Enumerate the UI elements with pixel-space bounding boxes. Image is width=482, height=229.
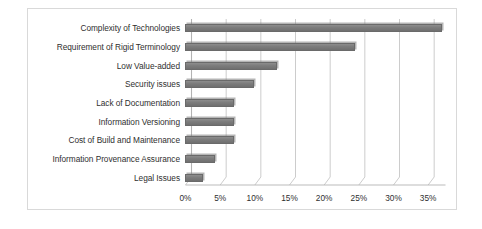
bar xyxy=(185,136,234,144)
x-tick-label: 15% xyxy=(281,193,298,203)
plot-area: Complexity of Technologies Requirement o… xyxy=(28,9,456,209)
category-label: Information Provenance Assurance xyxy=(28,154,185,164)
x-tick-label: 25% xyxy=(351,193,368,203)
x-tick-label: 20% xyxy=(316,193,333,203)
category-label: Requirement of Rigid Terminology xyxy=(28,42,185,52)
category-label: Security issues xyxy=(28,79,185,89)
category-label: Complexity of Technologies xyxy=(28,23,185,33)
bar xyxy=(185,155,215,163)
bar-row xyxy=(185,94,445,113)
x-tick-label: 10% xyxy=(247,193,264,203)
bars-layer xyxy=(185,19,445,187)
x-tick-label: 5% xyxy=(214,193,226,203)
category-label: Lack of Documentation xyxy=(28,98,185,108)
bar-row xyxy=(185,168,445,187)
x-tick-label: 30% xyxy=(385,193,402,203)
category-axis: Complexity of Technologies Requirement o… xyxy=(28,19,185,187)
bar-row xyxy=(185,19,445,38)
bar xyxy=(185,80,254,88)
category-label: Legal Issues xyxy=(28,173,185,183)
bar-row xyxy=(185,112,445,131)
bar xyxy=(185,62,277,70)
bar-row xyxy=(185,150,445,169)
bar-row xyxy=(185,38,445,57)
x-tick-label: 0% xyxy=(180,193,192,203)
bar xyxy=(185,24,442,32)
chart-container: Complexity of Technologies Requirement o… xyxy=(27,8,457,210)
bar xyxy=(185,174,203,182)
category-label: Low Value-added xyxy=(28,61,185,71)
x-tick-label: 35% xyxy=(420,193,437,203)
bar xyxy=(185,43,355,51)
bar xyxy=(185,118,234,126)
category-label: Information Versioning xyxy=(28,117,185,127)
bar-row xyxy=(185,131,445,150)
value-axis: 0%5%10%15%20%25%30%35% xyxy=(185,193,457,207)
bar-row xyxy=(185,56,445,75)
category-label: Cost of Build and Maintenance xyxy=(28,135,185,145)
bar-row xyxy=(185,75,445,94)
bar xyxy=(185,99,234,107)
